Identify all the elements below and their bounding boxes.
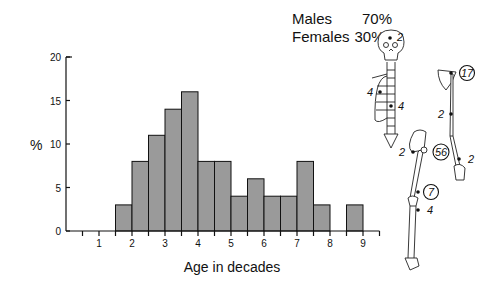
annotation-proximal-femur: 56	[435, 146, 448, 158]
histogram-bars	[116, 92, 364, 231]
skeleton-illustration	[372, 30, 465, 270]
histogram-bar	[132, 161, 149, 231]
histogram-bar	[264, 196, 281, 231]
skeleton-annotations: 2 4 4 17 2 2 2 56 7 4	[367, 31, 475, 216]
x-tick-label: 6	[261, 238, 267, 249]
histogram-bar	[198, 161, 215, 231]
annotation-humerus-shaft: 2	[437, 108, 444, 120]
hand-icon	[454, 164, 465, 180]
histogram-bar	[281, 196, 298, 231]
y-tick-label: 5	[55, 183, 61, 194]
histogram-bar	[297, 161, 314, 231]
humerus-icon	[450, 74, 453, 136]
x-tick-label: 8	[327, 238, 333, 249]
histogram-bar	[231, 196, 248, 231]
y-tick-label: 10	[50, 139, 62, 150]
y-tick-label: 15	[50, 96, 62, 107]
histogram-bar	[314, 205, 331, 231]
annotation-distal-femur: 7	[428, 186, 435, 198]
histogram-bar	[248, 179, 265, 231]
x-tick-label: 1	[96, 238, 102, 249]
histogram-bar	[182, 92, 199, 231]
histogram-bar	[165, 109, 182, 231]
x-tick-label: 4	[195, 238, 201, 249]
annotation-spine: 4	[398, 100, 404, 112]
histogram-bar	[116, 205, 133, 231]
histogram-chart: 05101520123456789 % Age in decades	[0, 0, 500, 287]
annotation-pelvis: 2	[398, 146, 405, 158]
x-tick-label: 3	[162, 238, 168, 249]
x-tick-label: 7	[294, 238, 300, 249]
y-axis-label: %	[30, 137, 42, 153]
annotation-proximal-humerus: 17	[461, 67, 474, 79]
y-tick-label: 20	[50, 52, 62, 63]
x-tick-label: 2	[129, 238, 135, 249]
x-axis-label: Age in decades	[184, 259, 281, 275]
annotation-ribs: 4	[367, 86, 373, 98]
histogram-bar	[347, 205, 364, 231]
annotation-skull: 2	[396, 31, 403, 43]
foot-icon	[405, 258, 419, 270]
histogram-bar	[215, 161, 232, 231]
tibia-icon	[408, 206, 416, 258]
histogram-bar	[149, 135, 166, 231]
annotation-proximal-tibia: 4	[427, 204, 433, 216]
x-tick-label: 9	[360, 238, 366, 249]
femur-icon	[410, 150, 423, 198]
x-tick-label: 5	[228, 238, 234, 249]
ribcage-icon	[372, 74, 387, 122]
annotation-hand: 2	[467, 153, 474, 165]
y-tick-label: 0	[55, 226, 61, 237]
forearm-icon	[450, 136, 460, 166]
